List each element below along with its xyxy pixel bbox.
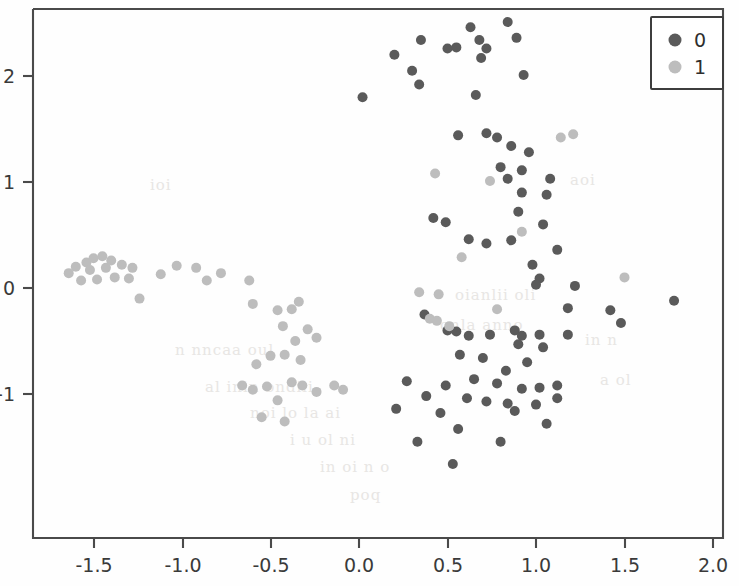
data-point [430,169,440,179]
data-point [522,357,532,367]
data-point [191,263,201,273]
data-point [71,262,81,272]
data-point [538,219,548,229]
data-point [517,227,527,237]
data-point [97,251,107,261]
data-point [457,252,467,262]
data-point [441,381,451,391]
data-point [503,174,513,184]
data-point [414,287,424,297]
data-point [89,253,99,263]
scatter-plot-figure: n nncaa oul al inin ondili noi lo la ai … [0,0,739,586]
data-point [280,417,290,427]
data-point [257,412,267,422]
data-point [76,276,86,286]
x-tick-label: 0.5 [433,554,463,576]
data-point [92,275,102,285]
data-point [251,359,261,369]
data-point [287,377,297,387]
data-point [496,437,506,447]
data-point [117,260,127,270]
data-point [552,393,562,403]
data-point [506,235,516,245]
x-tick-label: -0.5 [252,554,289,576]
data-point [481,128,491,138]
x-axis-tick-labels: -1.5 -1.0 -0.5 0.0 0.5 1.0 1.5 2.0 [75,554,728,576]
data-point [568,129,578,139]
data-point [492,378,502,388]
data-point [492,304,502,314]
data-point [248,299,258,309]
data-point [464,331,474,341]
data-point [552,245,562,255]
data-point [481,43,491,53]
data-point [416,35,426,45]
data-point [466,22,476,32]
y-tick-label: 2 [3,65,15,87]
data-point [476,53,486,63]
svg-text:poq: poq [350,486,381,504]
data-point [503,17,513,27]
data-point [287,304,297,314]
data-point [297,381,307,391]
data-point [485,330,495,340]
data-point [262,382,272,392]
data-point [453,424,463,434]
legend-label-1: 1 [694,56,706,78]
data-point [85,265,95,275]
data-point [501,366,511,376]
data-point [542,419,552,429]
data-point [441,217,451,227]
data-point [358,92,368,102]
data-point [527,260,537,270]
data-points-layer [64,17,679,469]
svg-text:ioi: ioi [150,176,172,194]
svg-text:al inin ondili: al inin ondili [205,378,314,396]
y-axis-ticks [23,76,33,394]
svg-text:aoi: aoi [570,171,596,189]
y-tick-label: 1 [3,171,15,193]
data-point [524,147,534,157]
data-point [172,261,182,271]
data-point [510,406,520,416]
data-point [414,79,424,89]
data-point [669,296,679,306]
x-axis-ticks [94,538,713,548]
data-point [616,318,626,328]
data-point [294,297,304,307]
data-point [296,355,306,365]
data-point [474,35,484,45]
data-point [485,176,495,186]
data-point [435,408,445,418]
data-point [538,342,548,352]
data-point [329,381,339,391]
data-point [563,330,573,340]
data-point [455,350,465,360]
y-axis-tick-labels: 2 1 0 -1 [0,65,15,405]
data-point [278,321,288,331]
data-point [513,207,523,217]
data-point [248,385,258,395]
background-bleed-text: n nncaa oul al inin ondili noi lo la ai … [150,171,632,504]
series-0 [358,17,680,469]
data-point [216,268,226,278]
data-point [448,459,458,469]
data-point [338,385,348,395]
data-point [471,90,481,100]
data-point [556,132,566,142]
data-point [312,387,322,397]
data-point [506,141,516,151]
data-point [462,393,472,403]
data-point [451,42,461,52]
legend-marker-0 [669,34,682,47]
x-tick-label: 1.0 [521,554,551,576]
data-point [517,384,527,394]
data-point [481,238,491,248]
x-tick-label: -1.0 [164,554,201,576]
data-point [605,305,615,315]
data-point [124,273,134,283]
svg-text:in n: in n [585,331,618,349]
legend-box[interactable]: 0 1 [651,17,723,89]
data-point [531,280,541,290]
data-point [402,376,412,386]
